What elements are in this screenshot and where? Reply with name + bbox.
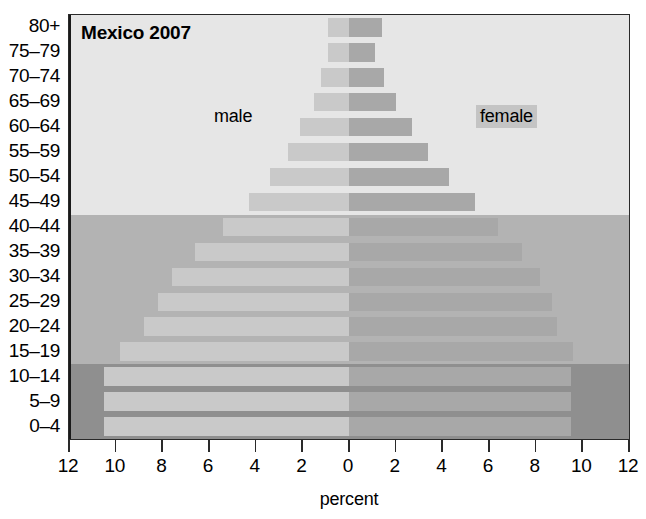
x-axis-tick — [535, 439, 537, 452]
x-axis-tick — [301, 439, 303, 452]
x-axis-title: percent — [68, 489, 630, 510]
bar-male — [104, 367, 349, 385]
bar-male — [328, 18, 349, 36]
x-axis-tick-label: 2 — [375, 455, 415, 477]
bar-male — [300, 118, 349, 136]
x-axis-tick — [255, 439, 257, 452]
x-axis-tick — [68, 439, 70, 452]
bar-male — [172, 268, 349, 286]
y-axis-labels: 0–45–910–1415–1920–2425–2930–3435–3940–4… — [0, 14, 64, 438]
bar-female — [349, 68, 384, 86]
bar-row — [69, 314, 629, 339]
x-axis-tick-label: 6 — [468, 455, 508, 477]
bar-female — [349, 168, 449, 186]
zero-axis-line — [69, 15, 71, 439]
y-axis-tick-label: 10–14 — [9, 364, 60, 388]
y-axis-tick-label: 0–4 — [29, 414, 60, 438]
y-axis-tick-label: 65–69 — [9, 89, 60, 113]
bar-male — [321, 68, 349, 86]
x-axis-tick — [488, 439, 490, 452]
bar-row — [69, 239, 629, 264]
x-axis-tick-label: 4 — [421, 455, 461, 477]
bar-female — [349, 218, 498, 236]
bar-male — [120, 342, 349, 360]
y-axis-tick-label: 70–74 — [9, 64, 60, 88]
y-axis-tick-label: 20–24 — [9, 314, 60, 338]
x-axis-tick-label: 12 — [608, 455, 646, 477]
y-axis-tick-label: 80+ — [29, 14, 60, 38]
x-axis-tick — [161, 439, 163, 452]
bar-row — [69, 339, 629, 364]
bar-row — [69, 264, 629, 289]
x-axis-tick — [348, 439, 350, 452]
bar-female — [349, 93, 396, 111]
y-axis-tick-label: 15–19 — [9, 339, 60, 363]
population-pyramid-chart: 0–45–910–1415–1920–2425–2930–3435–3940–4… — [0, 0, 646, 519]
x-axis-tick — [395, 439, 397, 452]
x-axis-tick — [581, 439, 583, 452]
x-axis-tick — [441, 439, 443, 452]
y-axis-tick-label: 60–64 — [9, 114, 60, 138]
bar-female — [349, 293, 552, 311]
bar-male — [223, 218, 349, 236]
bar-male — [104, 392, 349, 410]
bar-female — [349, 392, 571, 410]
x-axis-tick — [115, 439, 117, 452]
y-axis-tick-label: 5–9 — [29, 389, 60, 413]
bar-row — [69, 115, 629, 140]
x-axis-tick — [628, 439, 630, 452]
x-axis-tick-label: 10 — [95, 455, 135, 477]
bar-row — [69, 165, 629, 190]
bar-row — [69, 389, 629, 414]
bar-row — [69, 289, 629, 314]
x-axis-tick-label: 6 — [188, 455, 228, 477]
bar-female — [349, 193, 475, 211]
bar-female — [349, 18, 382, 36]
bar-female — [349, 342, 573, 360]
bar-male — [104, 417, 349, 435]
series-label-female: female — [476, 105, 537, 128]
bar-female — [349, 417, 571, 435]
bar-female — [349, 367, 571, 385]
bar-row — [69, 65, 629, 90]
bar-female — [349, 143, 428, 161]
y-axis-tick-label: 55–59 — [9, 139, 60, 163]
x-axis-tick-label: 10 — [561, 455, 601, 477]
bar-row — [69, 215, 629, 240]
bar-female — [349, 317, 557, 335]
y-axis-tick-label: 25–29 — [9, 289, 60, 313]
bar-male — [328, 43, 349, 61]
series-label-male: male — [210, 105, 256, 128]
bar-male — [158, 293, 349, 311]
x-axis-tick-label: 2 — [281, 455, 321, 477]
y-axis-tick-label: 75–79 — [9, 39, 60, 63]
x-axis: percent 12108642024681012 — [68, 439, 630, 519]
x-axis-tick-label: 4 — [235, 455, 275, 477]
bar-female — [349, 268, 540, 286]
bar-male — [249, 193, 349, 211]
bar-row — [69, 90, 629, 115]
bar-female — [349, 43, 375, 61]
y-axis-tick-label: 35–39 — [9, 239, 60, 263]
bar-male — [195, 243, 349, 261]
x-axis-tick-label: 12 — [48, 455, 88, 477]
x-axis-tick-label: 0 — [328, 455, 368, 477]
bar-row — [69, 190, 629, 215]
bar-male — [314, 93, 349, 111]
bar-row — [69, 364, 629, 389]
x-axis-tick-label: 8 — [515, 455, 555, 477]
bar-female — [349, 118, 412, 136]
x-axis-tick-label: 8 — [141, 455, 181, 477]
y-axis-tick-label: 45–49 — [9, 189, 60, 213]
x-axis-tick — [208, 439, 210, 452]
bar-row — [69, 414, 629, 439]
bar-female — [349, 243, 522, 261]
chart-title: Mexico 2007 — [81, 22, 191, 44]
bar-male — [144, 317, 349, 335]
plot-area: Mexico 2007 male female — [68, 14, 630, 440]
y-axis-tick-label: 30–34 — [9, 264, 60, 288]
bar-male — [270, 168, 349, 186]
bar-male — [288, 143, 349, 161]
y-axis-tick-label: 40–44 — [9, 214, 60, 238]
y-axis-tick-label: 50–54 — [9, 164, 60, 188]
